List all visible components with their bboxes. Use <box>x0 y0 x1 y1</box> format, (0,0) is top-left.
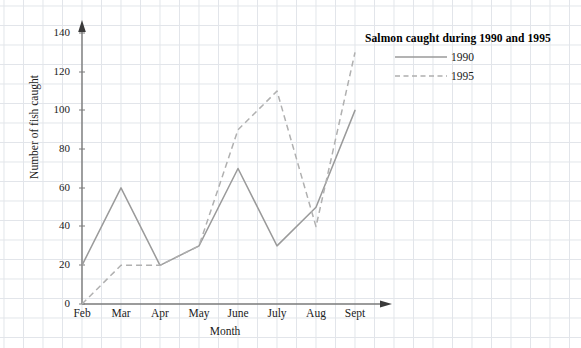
chart-legend: Salmon caught during 1990 and 1995 1990 … <box>365 32 575 82</box>
xtick-label-aug: Aug <box>296 307 336 319</box>
xtick-label-may: May <box>179 307 219 319</box>
xtick-label-july: July <box>257 307 297 319</box>
ytick-label: 120 <box>42 65 70 77</box>
y-axis-title-wrapper: Number of fish caught <box>24 62 42 192</box>
xtick-label-feb: Feb <box>62 307 102 319</box>
xtick-label-sept: Sept <box>335 307 375 319</box>
xtick-label-mar: Mar <box>101 307 141 319</box>
ytick-label: 20 <box>42 258 70 270</box>
ytick-label: 140 <box>42 26 70 38</box>
legend-label-1995: 1995 <box>451 70 474 82</box>
ytick-label: 100 <box>42 103 70 115</box>
x-axis-title: Month <box>180 325 270 337</box>
ytick-label: 80 <box>42 142 70 154</box>
legend-dashed-line-icon <box>395 71 447 81</box>
xtick-label-june: June <box>218 307 258 319</box>
ytick-label: 40 <box>42 219 70 231</box>
xtick-label-apr: Apr <box>140 307 180 319</box>
legend-label-1990: 1990 <box>451 51 474 63</box>
legend-solid-line-icon <box>395 52 447 62</box>
ytick-label: 60 <box>42 181 70 193</box>
legend-title: Salmon caught during 1990 and 1995 <box>365 32 575 44</box>
series-line-1995 <box>82 52 355 304</box>
legend-item-1990: 1990 <box>365 51 575 63</box>
y-axis-title: Number of fish caught <box>28 75 40 179</box>
legend-item-1995: 1995 <box>365 70 575 82</box>
series-line-1990 <box>82 110 355 265</box>
chart-page: 0 20 40 60 80 100 120 140 Feb Mar Apr Ma… <box>0 0 581 348</box>
